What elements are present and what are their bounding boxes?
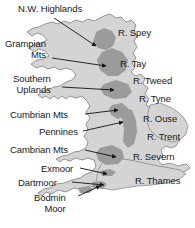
label-cumbrian-mts: Cumbrian Mts <box>10 110 68 121</box>
label-r-trent: R. Trent <box>147 132 180 143</box>
label-exmoor: Exmoor <box>41 164 73 175</box>
label-bodmin-moor: Bodmin Moor <box>34 193 66 214</box>
label-pennines: Pennines <box>39 127 78 138</box>
label-cambrian-mts: Cambrian Mts <box>10 145 68 156</box>
label-nw-highlands: N.W. Highlands <box>18 4 82 15</box>
map-figure: N.W. HighlandsGrampian MtsSouthern Uplan… <box>0 0 195 228</box>
label-r-thames: R. Thames <box>135 176 180 187</box>
label-r-tyne: R. Tyne <box>139 94 171 105</box>
label-dartmoor: Dartmoor <box>18 178 57 189</box>
label-southern-uplands: Southern Uplands <box>13 74 51 95</box>
label-r-ouse: R. Ouse <box>143 114 177 125</box>
label-r-spey: R. Spey <box>118 28 151 39</box>
label-r-severn: R. Severn <box>133 152 174 163</box>
label-r-tweed: R. Tweed <box>133 76 172 87</box>
label-grampian-mts: Grampian Mts <box>5 39 46 60</box>
label-r-tay: R. Tay <box>120 59 146 70</box>
